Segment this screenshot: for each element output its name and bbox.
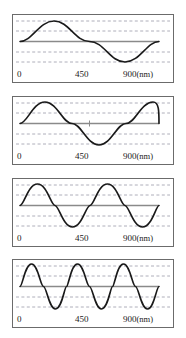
waveform-panel-2: 0 450 900(nm) xyxy=(12,96,174,165)
waveform-panel-stack: 0 450 900(nm) 0 450 900(nm) xyxy=(0,0,186,338)
x-tick-0-panel1: 0 xyxy=(17,67,22,82)
x-tick-450-panel4: 450 xyxy=(75,312,89,327)
waveform-svg-1 xyxy=(13,15,173,68)
plot-area-4 xyxy=(13,260,173,313)
axis-labels-2: 0 450 900(nm) xyxy=(13,149,173,164)
x-tick-450-panel3: 450 xyxy=(75,231,89,246)
x-tick-900-panel3: 900(nm) xyxy=(123,231,153,246)
x-tick-900-panel4: 900(nm) xyxy=(123,312,153,327)
waveform-svg-3 xyxy=(13,179,173,232)
axis-labels-1: 0 450 900(nm) xyxy=(13,67,173,82)
axis-unit-1: (nm) xyxy=(137,69,154,79)
plot-area-2 xyxy=(13,97,173,150)
axis-labels-4: 0 450 900(nm) xyxy=(13,312,173,327)
x-tick-450-panel2: 450 xyxy=(75,149,89,164)
axis-unit-2: (nm) xyxy=(137,151,154,161)
waveform-svg-2 xyxy=(13,97,173,150)
x-tick-0-panel4: 0 xyxy=(17,312,22,327)
waveform-panel-3: 0 450 900(nm) xyxy=(12,178,174,247)
x-tick-450-panel1: 450 xyxy=(75,67,89,82)
waveform-panel-1: 0 450 900(nm) xyxy=(12,14,174,83)
axis-unit-3: (nm) xyxy=(137,233,154,243)
waveform-panel-4: 0 450 900(nm) xyxy=(12,259,174,328)
axis-labels-3: 0 450 900(nm) xyxy=(13,231,173,246)
plot-area-1 xyxy=(13,15,173,68)
x-tick-0-panel3: 0 xyxy=(17,231,22,246)
x-tick-0-panel2: 0 xyxy=(17,149,22,164)
waveform-svg-4 xyxy=(13,260,173,313)
axis-unit-4: (nm) xyxy=(137,314,154,324)
x-tick-900-panel1: 900(nm) xyxy=(123,67,153,82)
plot-area-3 xyxy=(13,179,173,232)
x-tick-900-panel2: 900(nm) xyxy=(123,149,153,164)
